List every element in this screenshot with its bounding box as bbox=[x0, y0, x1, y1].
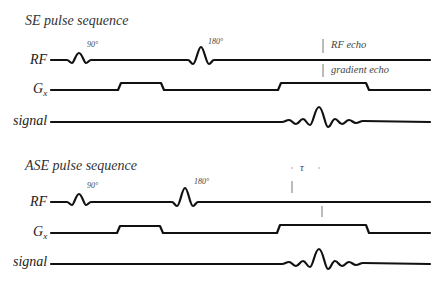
se-gx-label: Gx bbox=[33, 81, 47, 98]
se-gradient-echo-label: gradient echo bbox=[331, 64, 389, 75]
ase-title: ASE pulse sequence bbox=[24, 158, 137, 173]
se-rf-label: RF bbox=[29, 52, 48, 67]
ase-signal-label: signal bbox=[13, 254, 47, 269]
se-title: SE pulse sequence bbox=[25, 13, 128, 28]
se-rf-echo-label: RF echo bbox=[330, 39, 366, 50]
pulse-sequence-diagram: SE pulse sequence RF 90° 180° RF echo gr… bbox=[0, 0, 446, 282]
se-signal-waveform bbox=[51, 107, 430, 127]
tau-dot-left bbox=[291, 167, 293, 169]
ase-rf-waveform bbox=[51, 188, 430, 206]
ase-gx-label: Gx bbox=[33, 224, 47, 241]
se-90-label: 90° bbox=[87, 40, 99, 49]
tau-label: τ bbox=[300, 162, 305, 173]
ase-180-label: 180° bbox=[194, 177, 210, 186]
ase-sequence: ASE pulse sequence RF 90° 180° τ Gx sign… bbox=[13, 158, 430, 269]
se-180-label: 180° bbox=[208, 37, 224, 46]
se-signal-label: signal bbox=[13, 113, 47, 128]
se-rf-waveform bbox=[51, 47, 430, 64]
ase-signal-waveform bbox=[51, 249, 430, 269]
ase-rf-label: RF bbox=[29, 194, 48, 209]
ase-90-label: 90° bbox=[87, 181, 99, 190]
se-sequence: SE pulse sequence RF 90° 180° RF echo gr… bbox=[13, 13, 430, 128]
tau-dot-right bbox=[318, 167, 320, 169]
ase-gx-waveform bbox=[51, 225, 430, 233]
se-gx-waveform bbox=[51, 83, 430, 90]
